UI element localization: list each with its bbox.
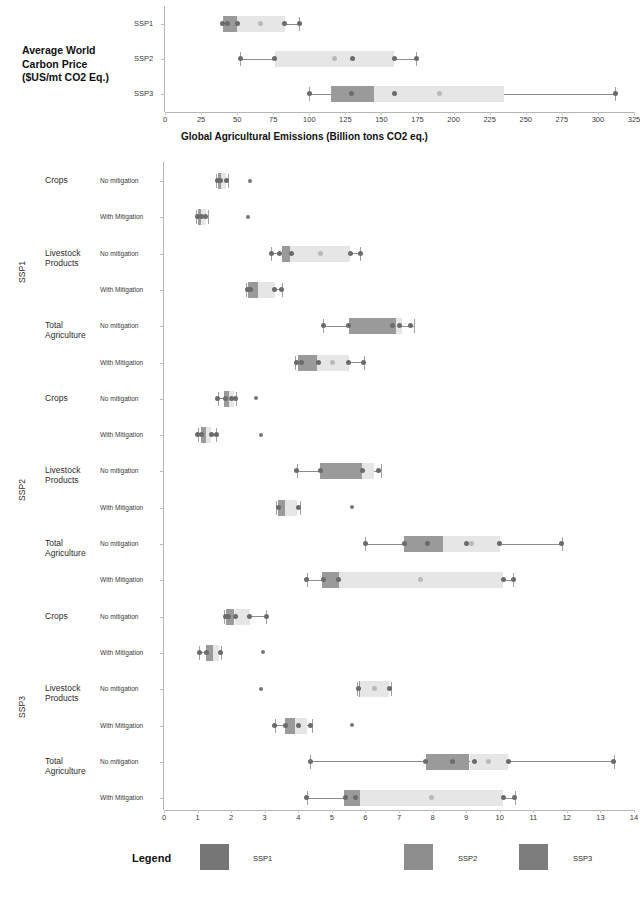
x-tick-label: 300 — [592, 115, 605, 124]
mitigation-label: With Mitigation — [100, 431, 143, 438]
x-tick-label: 6 — [363, 813, 367, 822]
boxplot — [164, 607, 634, 627]
outlier-point — [246, 215, 250, 219]
data-point — [316, 360, 321, 365]
emissions-plot — [164, 162, 634, 810]
ssp-group-label-ssp3: SSP3 — [17, 696, 27, 718]
mitigation-label: No mitigation — [100, 467, 138, 474]
data-point — [348, 251, 353, 256]
data-point — [296, 723, 301, 728]
x-tick-label: 0 — [163, 115, 167, 124]
mitigation-label: No mitigation — [100, 685, 138, 692]
box-dark — [349, 318, 396, 334]
data-point — [307, 91, 312, 96]
x-tick-label: 50 — [233, 115, 241, 124]
mitigation-label: No mitigation — [100, 177, 138, 184]
data-point — [233, 614, 238, 619]
data-point — [277, 251, 282, 256]
category-label-ssp2: SSP2 — [134, 54, 153, 63]
x-tick-label: 1 — [195, 813, 199, 822]
legend-label-ssp3: SSP3 — [573, 854, 592, 863]
x-tick-label: 12 — [563, 813, 571, 822]
data-point — [215, 396, 220, 401]
boxplot — [165, 14, 634, 34]
x-tick-label: 9 — [464, 813, 468, 822]
data-point — [402, 541, 407, 546]
data-point — [349, 91, 354, 96]
data-point — [613, 91, 618, 96]
outlier-point — [248, 179, 252, 183]
data-point — [282, 21, 287, 26]
ssp-group-label-ssp2: SSP2 — [17, 479, 27, 501]
sector-label: Crops — [45, 393, 103, 403]
data-point — [408, 323, 413, 328]
legend-label-ssp2: SSP2 — [458, 854, 477, 863]
x-tick-label: 13 — [596, 813, 604, 822]
data-point — [343, 795, 348, 800]
axis-tick-mark — [161, 59, 165, 60]
sector-label: Livestock Products — [45, 683, 103, 703]
data-point — [397, 323, 402, 328]
data-point — [279, 287, 284, 292]
data-point — [392, 91, 397, 96]
mitigation-label: No mitigation — [100, 250, 138, 257]
outlier-point — [350, 723, 354, 727]
data-point — [289, 251, 294, 256]
outlier-point — [259, 687, 263, 691]
box-dark — [426, 754, 470, 770]
legend-swatch-ssp2 — [404, 844, 433, 870]
data-point — [296, 505, 301, 510]
legend-title: Legend — [132, 852, 171, 864]
data-point — [297, 21, 302, 26]
box-light — [285, 500, 297, 516]
boxplot — [164, 461, 634, 481]
carbon-price-title: Average World Carbon Price ($US/mt CO2 E… — [22, 44, 162, 85]
data-point — [269, 251, 274, 256]
data-point — [414, 56, 419, 61]
data-point — [512, 795, 517, 800]
data-point — [235, 21, 240, 26]
data-point — [611, 759, 616, 764]
x-tick-label: 25 — [197, 115, 205, 124]
mitigation-label: With Mitigation — [100, 213, 143, 220]
data-point — [472, 759, 477, 764]
x-tick-label: 11 — [529, 813, 537, 822]
boxplot — [164, 353, 634, 373]
whisker-cap — [414, 319, 415, 333]
data-point — [511, 577, 516, 582]
boxplot — [164, 788, 634, 808]
data-point — [225, 21, 230, 26]
data-point — [218, 178, 223, 183]
data-point — [233, 396, 238, 401]
mitigation-label: With Mitigation — [100, 359, 143, 366]
sector-label: Crops — [45, 175, 103, 185]
boxplot — [164, 244, 634, 264]
sector-label: Livestock Products — [45, 465, 103, 485]
legend: Legend SSP1SSP2SSP3 — [0, 838, 639, 898]
data-point — [353, 795, 358, 800]
boxplot — [164, 425, 634, 445]
data-point — [392, 56, 397, 61]
x-tick-label: 3 — [263, 813, 267, 822]
data-point — [464, 541, 469, 546]
x-tick-label: 175 — [411, 115, 424, 124]
x-tick-label: 10 — [496, 813, 504, 822]
boxplot — [164, 498, 634, 518]
x-tick-label: 5 — [330, 813, 334, 822]
x-tick-label: 14 — [630, 813, 638, 822]
data-point — [363, 541, 368, 546]
x-tick-label: 100 — [303, 115, 316, 124]
mitigation-label: With Mitigation — [100, 504, 143, 511]
data-point — [304, 577, 309, 582]
boxplot — [164, 643, 634, 663]
boxplot — [165, 49, 634, 69]
sector-label: Livestock Products — [45, 248, 103, 268]
data-point — [209, 432, 214, 437]
boxplot — [164, 207, 634, 227]
x-tick-label: 225 — [483, 115, 496, 124]
carbon-price-plot — [165, 6, 634, 112]
data-point — [559, 541, 564, 546]
data-point — [214, 432, 219, 437]
mitigation-label: With Mitigation — [100, 722, 143, 729]
data-point — [272, 723, 277, 728]
